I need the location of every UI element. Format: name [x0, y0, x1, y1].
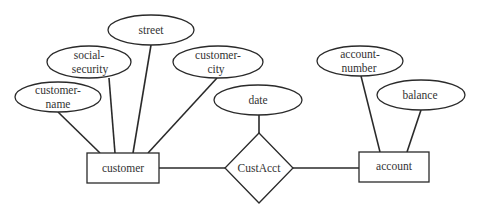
attribute-customer-name-label-line1: customer- — [35, 84, 81, 96]
entity-account: account — [359, 152, 429, 182]
relationship-custacct: CustAcct — [225, 133, 293, 203]
attribute-date: date — [214, 85, 302, 115]
attribute-customer-city-label-line1: customer- — [195, 49, 241, 61]
relationship-custacct-label: CustAcct — [238, 162, 282, 174]
edge-social-security-customer — [109, 78, 115, 153]
attribute-customer-city: customer- city — [173, 46, 263, 78]
attribute-date-label: date — [248, 94, 267, 106]
attribute-social-security-label-line2: security — [72, 63, 109, 76]
entity-customer-label: customer — [102, 162, 144, 174]
entity-account-label: account — [376, 160, 413, 172]
edge-customer-name-customer — [58, 112, 100, 153]
attribute-customer-name: customer- name — [15, 82, 101, 112]
attribute-balance: balance — [377, 80, 465, 110]
attribute-account-number-label-line1: account- — [340, 48, 380, 60]
attribute-customer-name-label-line2: name — [46, 98, 71, 110]
edge-account-number-account — [361, 76, 380, 152]
attribute-street: street — [108, 15, 194, 45]
attribute-social-security: social- security — [47, 46, 131, 78]
attribute-customer-city-label-line2: city — [207, 63, 224, 76]
entity-customer: customer — [87, 153, 159, 183]
attribute-account-number: account- number — [317, 46, 403, 76]
er-diagram: street social- security customer- name c… — [0, 0, 479, 216]
attribute-social-security-label-line1: social- — [74, 49, 105, 61]
edge-customer-city-customer — [148, 78, 217, 153]
edge-balance-account — [407, 110, 421, 152]
attribute-balance-label: balance — [402, 89, 437, 101]
edge-street-customer — [133, 45, 151, 153]
attribute-account-number-label-line2: number — [341, 62, 376, 74]
attribute-street-label: street — [139, 24, 165, 36]
